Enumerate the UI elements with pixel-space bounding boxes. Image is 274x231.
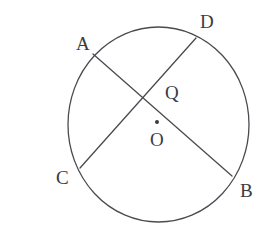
point-label-a: A	[76, 34, 90, 53]
geometry-diagram: A D Q O C B	[0, 0, 274, 231]
point-label-c: C	[56, 168, 69, 187]
center-dot	[155, 120, 159, 124]
point-label-b: B	[240, 181, 253, 200]
chord-ab	[93, 54, 232, 176]
point-label-q: Q	[165, 83, 179, 102]
diagram-canvas	[0, 0, 274, 231]
point-label-d: D	[200, 12, 214, 31]
point-label-o: O	[150, 130, 164, 149]
